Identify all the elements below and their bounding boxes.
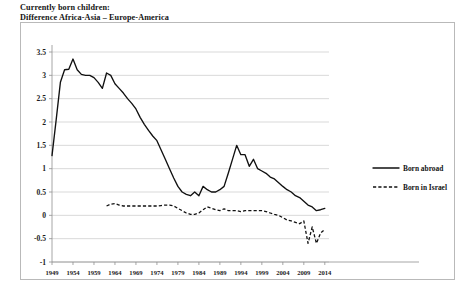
series-line-born-in-israel [107, 204, 325, 244]
y-axis-tick-label: 0.5 [37, 188, 47, 197]
y-axis-tick-label: 3 [42, 71, 46, 80]
y-axis-tick-label: 0 [42, 211, 46, 220]
x-axis-tick-label: 1974 [150, 269, 164, 276]
y-axis-tick-label: -0.5 [34, 234, 46, 243]
x-axis-tick-label: 1959 [87, 269, 101, 276]
x-axis-tick-label: 2009 [297, 269, 311, 276]
x-axis-tick-label: 1994 [234, 269, 248, 276]
x-axis-tick-label: 1949 [45, 269, 59, 276]
series-line-born-abroad [52, 59, 325, 211]
y-axis-tick-label: 3.5 [37, 48, 47, 57]
x-axis-tick-label: 1964 [108, 269, 122, 276]
x-axis-tick-label: 1954 [66, 269, 80, 276]
x-axis-tick-label: 1979 [171, 269, 185, 276]
line-chart: 3.532.521.510.50-0.5-1194919541959196419… [21, 23, 456, 281]
x-axis-tick-label: 2014 [318, 269, 332, 276]
y-axis-tick-label: 2 [42, 118, 46, 127]
y-axis-tick-label: -1 [40, 258, 47, 267]
y-axis-tick-label: 1 [42, 164, 46, 173]
x-axis-tick-label: 1984 [192, 269, 206, 276]
x-axis-tick-label: 2004 [276, 269, 290, 276]
y-axis-tick-label: 2.5 [37, 94, 47, 103]
chart-screenshot: Currently born children: Difference Afri… [0, 0, 471, 290]
y-axis-tick-label: 1.5 [37, 141, 47, 150]
chart-title: Currently born children: Difference Afri… [20, 3, 320, 23]
legend-label-born-abroad: Born abroad [403, 164, 444, 173]
x-axis-tick-label: 1989 [213, 269, 227, 276]
x-axis-tick-label: 1969 [129, 269, 143, 276]
legend-label-born-in-israel: Born in Israel [403, 183, 447, 192]
x-axis-tick-label: 1999 [255, 269, 269, 276]
chart-plot-frame: 3.532.521.510.50-0.5-1194919541959196419… [20, 22, 455, 280]
chart-title-line1: Currently born children: [20, 3, 320, 13]
